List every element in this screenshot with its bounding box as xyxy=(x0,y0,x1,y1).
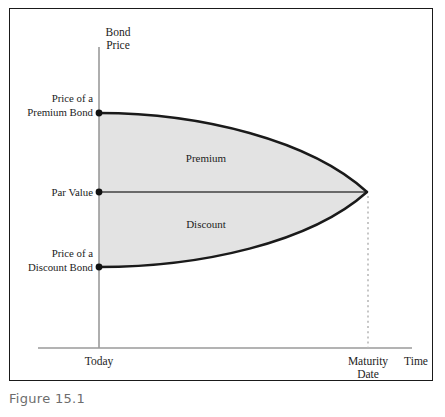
figure-container: Bond Price Price of a Premium Bond Par V… xyxy=(0,0,445,417)
convergence-shaded-area xyxy=(99,113,367,267)
discount-bond-label-line2: Discount Bond xyxy=(28,261,94,273)
premium-region-label: Premium xyxy=(186,152,227,164)
x-tick-maturity-line1: Maturity xyxy=(348,355,388,368)
x-tick-today: Today xyxy=(85,355,114,368)
y-axis-label-line1: Bond xyxy=(106,26,131,38)
par-value-point-marker xyxy=(96,189,103,196)
bond-price-convergence-chart: Bond Price Price of a Premium Bond Par V… xyxy=(0,0,445,417)
discount-bond-point-marker xyxy=(96,264,103,271)
premium-bond-label-line1: Price of a xyxy=(52,92,94,104)
par-value-label: Par Value xyxy=(52,186,94,198)
discount-bond-label-line1: Price of a xyxy=(52,247,94,259)
x-axis-label: Time xyxy=(404,355,428,367)
x-tick-maturity-line2: Date xyxy=(357,368,379,380)
figure-caption: Figure 15.1 xyxy=(9,391,85,406)
y-axis-label-line2: Price xyxy=(106,39,130,51)
premium-bond-label-line2: Premium Bond xyxy=(27,106,93,118)
discount-region-label: Discount xyxy=(186,218,226,230)
premium-bond-point-marker xyxy=(96,110,103,117)
